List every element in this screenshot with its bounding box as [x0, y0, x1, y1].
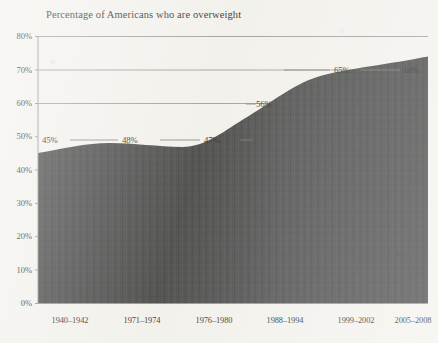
x-tick-label-1976-1980: 1976–1980 — [174, 316, 254, 325]
y-tick-label-0: 0% — [0, 298, 32, 308]
data-label-47: 47% — [202, 135, 222, 145]
chart-plot-area — [0, 0, 438, 343]
y-tick-label-10: 10% — [0, 265, 32, 275]
y-tick-label-50: 50% — [0, 131, 32, 141]
area-series — [38, 57, 428, 304]
data-label-45: 45% — [40, 135, 60, 145]
y-tick-label-80: 80% — [0, 31, 32, 41]
y-tick-label-70: 70% — [0, 65, 32, 75]
data-label-65: 65% — [332, 65, 352, 75]
y-tick-label-60: 60% — [0, 98, 32, 108]
y-tick-label-20: 20% — [0, 231, 32, 241]
data-label-56: 56% — [254, 99, 274, 109]
x-tick-label-1971-1974: 1971–1974 — [102, 316, 182, 325]
data-label-48: 48% — [120, 135, 140, 145]
x-tick-label-2005-2008: 2005–2008 — [373, 316, 438, 325]
x-tick-label-1940-1942: 1940–1942 — [30, 316, 110, 325]
data-label-68: 68% — [402, 65, 422, 75]
y-tick-label-30: 30% — [0, 198, 32, 208]
x-tick-label-1988-1994: 1988–1994 — [245, 316, 325, 325]
chart-container: Percentage of Americans who are overweig… — [0, 0, 438, 343]
y-tick-label-40: 40% — [0, 165, 32, 175]
